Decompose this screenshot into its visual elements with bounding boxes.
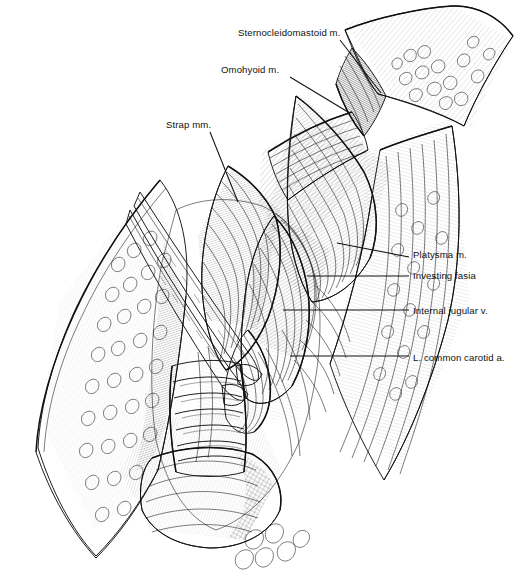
label-strap-muscles: Strap mm. xyxy=(166,120,211,130)
label-internal-jugular-vein: Internal jugular v. xyxy=(413,306,488,316)
illustration-canvas xyxy=(0,0,527,586)
label-left-common-carotid-artery: L. common carotid a. xyxy=(413,353,505,363)
label-sternocleidomastoid: Sternocleidomastoid m. xyxy=(238,28,340,38)
anatomical-figure: Sternocleidomastoid m. Omohyoid m. Strap… xyxy=(0,0,527,586)
label-investing-fascia: Investing fasia xyxy=(413,271,476,281)
label-omohyoid: Omohyoid m. xyxy=(221,65,279,75)
label-platysma: Platysma m. xyxy=(413,250,467,260)
